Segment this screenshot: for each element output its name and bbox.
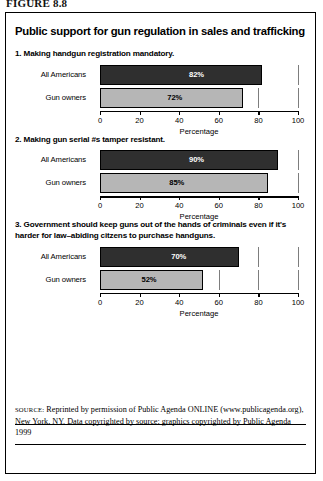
bar-value-label: 82% [189, 65, 204, 85]
bar-row: All Americans 70% [15, 247, 306, 267]
x-axis-tick [140, 293, 141, 297]
bar-track: 85% [100, 173, 298, 193]
gridline [298, 173, 299, 193]
chart-heading: 3. Government should keep guns out of th… [15, 220, 306, 242]
figure-label: FIGURE 8.8 [6, 0, 67, 8]
bar-row: Gun owners 72% [15, 88, 306, 108]
source-note: SOURCE: Reprinted by permission of Publi… [15, 404, 306, 439]
bar-row: All Americans 82% [15, 65, 306, 85]
x-axis-tick [100, 196, 101, 200]
x-axis-tick-label: 60 [215, 201, 223, 210]
gridline [298, 88, 299, 108]
x-axis-tick-label: 100 [292, 201, 305, 210]
chart-plot: All Americans 70% Gun owners 52% [15, 247, 306, 311]
source-text: Reprinted by permission of Public Agenda… [15, 405, 303, 437]
x-axis-tick [298, 196, 299, 200]
chart-block-1: 1. Making handgun registration mandatory… [15, 49, 306, 129]
x-axis-tick-label: 40 [175, 116, 183, 125]
x-axis-tick [258, 196, 259, 200]
x-axis-tick-label: 80 [254, 116, 262, 125]
x-axis-tick [179, 293, 180, 297]
bar-track: 70% [100, 247, 298, 267]
figure-panel: Public support for gun regulation in sal… [5, 12, 316, 474]
bar-track: 72% [100, 88, 298, 108]
chart-plot: All Americans 90% Gun owners 85% [15, 150, 306, 214]
bar-all-americans [100, 247, 239, 267]
x-axis-tick-labels: 020406080100 [100, 116, 298, 127]
gridline [298, 65, 299, 85]
category-label: Gun owners [15, 88, 93, 108]
gridline [258, 270, 259, 290]
x-axis-tick [179, 111, 180, 115]
x-axis-tick-label: 60 [215, 298, 223, 307]
source-prefix: SOURCE: [15, 406, 44, 413]
x-axis-title: Percentage [100, 212, 298, 221]
x-axis-tick [100, 111, 101, 115]
x-axis-tick-label: 80 [254, 298, 262, 307]
chart-block-2: 2. Making gun serial #s tamper resistant… [15, 135, 306, 215]
category-label: Gun owners [15, 270, 93, 290]
x-axis-tick [219, 293, 220, 297]
bar-track: 82% [100, 65, 298, 85]
x-axis-tick [100, 293, 101, 297]
x-axis-tick-labels: 020406080100 [100, 201, 298, 212]
bar-track: 90% [100, 150, 298, 170]
bar-value-label: 90% [189, 150, 204, 170]
x-axis-tick-label: 0 [98, 116, 102, 125]
x-axis-tick-label: 60 [215, 116, 223, 125]
category-label: All Americans [15, 65, 93, 85]
bar-row: Gun owners 52% [15, 270, 306, 290]
x-axis-title: Percentage [100, 309, 298, 318]
x-axis-tick-labels: 020406080100 [100, 298, 298, 309]
x-axis-tick-label: 20 [135, 201, 143, 210]
bar-row: Gun owners 85% [15, 173, 306, 193]
gridline [298, 150, 299, 170]
x-axis-tick [140, 111, 141, 115]
x-axis-tick-label: 20 [135, 298, 143, 307]
x-axis-tick [219, 111, 220, 115]
bar-row: All Americans 90% [15, 150, 306, 170]
x-axis-tick [258, 293, 259, 297]
bar-value-label: 52% [142, 270, 157, 290]
x-axis-tick [258, 111, 259, 115]
x-axis-tick-label: 80 [254, 201, 262, 210]
x-axis-tick [140, 196, 141, 200]
chart-block-3: 3. Government should keep guns out of th… [15, 220, 306, 311]
x-axis-tick-label: 100 [292, 298, 305, 307]
bar-value-label: 70% [171, 247, 186, 267]
bar-value-label: 85% [169, 173, 184, 193]
x-axis-tick [298, 293, 299, 297]
category-label: Gun owners [15, 173, 93, 193]
x-axis-tick-label: 0 [98, 201, 102, 210]
bar-value-label: 72% [167, 88, 182, 108]
chart-heading: 2. Making gun serial #s tamper resistant… [15, 135, 306, 146]
x-axis-tick-label: 20 [135, 116, 143, 125]
gridline [258, 88, 259, 108]
x-axis-tick-label: 0 [98, 298, 102, 307]
gridline [258, 247, 259, 267]
source-divider-bottom [15, 444, 306, 445]
gridline [219, 270, 220, 290]
x-axis-tick [298, 111, 299, 115]
category-label: All Americans [15, 150, 93, 170]
category-label: All Americans [15, 247, 93, 267]
x-axis-title: Percentage [100, 127, 298, 136]
bar-all-americans [100, 65, 262, 85]
bar-track: 52% [100, 270, 298, 290]
x-axis-tick-label: 40 [175, 201, 183, 210]
chart-plot: All Americans 82% Gun owners 72% [15, 65, 306, 129]
x-axis-tick [179, 196, 180, 200]
x-axis-tick-label: 100 [292, 116, 305, 125]
x-axis-tick [219, 196, 220, 200]
figure-title: Public support for gun regulation in sal… [15, 25, 306, 38]
gridline [298, 247, 299, 267]
gridline [298, 270, 299, 290]
x-axis-tick-label: 40 [175, 298, 183, 307]
chart-heading: 1. Making handgun registration mandatory… [15, 49, 306, 60]
